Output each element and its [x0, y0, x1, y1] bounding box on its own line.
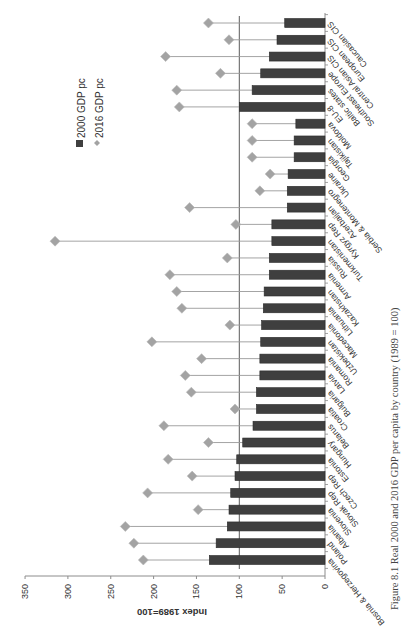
data-row: [215, 68, 325, 78]
diamond-2016: [129, 538, 139, 548]
figure-caption: Figure 8.1 Real 2000 and 2016 GDP per ca…: [389, 307, 401, 610]
diamond-2016: [120, 521, 130, 531]
bar-2000: [235, 472, 325, 481]
data-row: [143, 488, 325, 498]
diamond-2016: [197, 354, 207, 364]
diamond-2016: [215, 68, 225, 78]
axis-tick-label: 0: [320, 584, 330, 589]
diamond-2016: [147, 337, 157, 347]
bar-2000: [264, 287, 325, 296]
bar-2000: [296, 119, 325, 128]
diamond-2016: [172, 287, 182, 297]
bar-2000: [277, 35, 325, 44]
data-row: [172, 85, 325, 95]
bar-2000: [237, 455, 325, 464]
data-row: [187, 471, 325, 481]
bar-2000: [287, 186, 325, 195]
data-row: [225, 320, 325, 330]
bar-2000: [243, 438, 325, 447]
data-row: [197, 354, 325, 364]
axis-tick-label: 300: [63, 584, 73, 599]
diamond-2016: [161, 52, 171, 62]
bar-2000: [231, 488, 325, 497]
legend: 2000 GDP pc2016 GDP pc: [76, 78, 105, 147]
data-row: [185, 203, 325, 213]
data-row: [255, 186, 325, 196]
axis-tick-label: 150: [191, 584, 201, 599]
axis-tick-label: 50: [277, 584, 287, 594]
bar-2000: [227, 522, 325, 531]
diamond-2016: [165, 270, 175, 280]
data-row: [165, 270, 325, 280]
data-series: [50, 18, 325, 565]
bar-2000: [256, 404, 325, 413]
bar-2000: [256, 388, 325, 397]
diamond-2016: [185, 203, 195, 213]
diamond-2016: [174, 102, 184, 112]
bar-2000: [261, 337, 325, 346]
diamond-2016: [186, 387, 196, 397]
bar-2000: [269, 270, 325, 279]
value-axis-title: Index 1989=100: [137, 607, 207, 618]
bar-2000: [269, 253, 325, 262]
diamond-2016: [222, 253, 232, 263]
diamond-2016: [247, 135, 257, 145]
bar-2000: [272, 220, 325, 229]
diamond-2016: [138, 555, 148, 565]
bar-2000: [288, 170, 325, 179]
data-row: [186, 387, 325, 397]
bar-2000: [260, 371, 325, 380]
data-row: [161, 52, 325, 62]
axis-tick-label: 200: [149, 584, 159, 599]
bar-2000: [294, 153, 325, 162]
data-row: [203, 438, 325, 448]
diamond-2016: [193, 505, 203, 515]
diamond-2016: [225, 320, 235, 330]
diamond-2016: [177, 303, 187, 313]
diamond-2016: [247, 119, 257, 129]
data-row: [180, 370, 325, 380]
category-labels: Bosnia & HerzegovinaPolandAlbaniaSloveni…: [324, 19, 386, 627]
legend-swatch-diamond: [94, 140, 100, 146]
diamond-2016: [143, 488, 153, 498]
diamond-2016: [230, 404, 240, 414]
diamond-2016: [247, 152, 257, 162]
chart-canvas: 050100150200250300350 Bosnia & Herzegovi…: [0, 0, 413, 639]
data-row: [163, 454, 325, 464]
diamond-2016: [180, 370, 190, 380]
legend-label-2000: 2000 GDP pc: [76, 78, 87, 138]
axis-tick-label: 100: [234, 584, 244, 599]
gdp-chart: 050100150200250300350 Bosnia & Herzegovi…: [0, 0, 413, 639]
data-row: [174, 102, 325, 112]
data-row: [129, 538, 325, 548]
bar-2000: [253, 421, 325, 430]
diamond-2016: [172, 85, 182, 95]
diamond-2016: [203, 438, 213, 448]
data-row: [50, 236, 325, 246]
data-row: [222, 253, 325, 263]
data-row: [247, 119, 325, 129]
data-row: [247, 152, 325, 162]
data-row: [203, 18, 325, 28]
bar-2000: [294, 136, 325, 145]
bar-2000: [272, 237, 325, 246]
bar-2000: [252, 86, 325, 95]
diamond-2016: [255, 186, 265, 196]
legend-swatch-bar: [76, 140, 83, 147]
category-label: Bosnia & Herzegovina: [325, 557, 387, 628]
legend-label-2016: 2016 GDP pc: [94, 78, 105, 138]
data-row: [120, 521, 325, 531]
diamond-2016: [265, 169, 275, 179]
bar-2000: [216, 539, 325, 548]
data-row: [231, 219, 325, 229]
data-row: [193, 505, 325, 515]
data-row: [265, 169, 325, 179]
diamond-2016: [159, 421, 169, 431]
bar-2000: [285, 19, 325, 28]
bar-2000: [263, 304, 325, 313]
bar-2000: [269, 52, 325, 61]
diamond-2016: [187, 471, 197, 481]
data-row: [172, 287, 325, 297]
data-row: [230, 404, 325, 414]
diamond-2016: [163, 454, 173, 464]
